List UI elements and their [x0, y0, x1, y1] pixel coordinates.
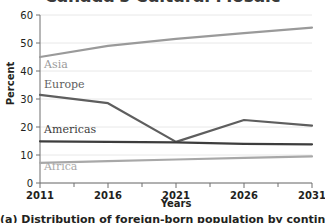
- y-tick-label: 40: [20, 66, 33, 77]
- x-tick-label: 2031: [298, 190, 325, 201]
- x-tick-label: 2011: [26, 190, 54, 201]
- y-tick-label: 0: [27, 178, 33, 189]
- series-label-asia: Asia: [43, 58, 68, 71]
- y-tick-label: 50: [20, 38, 33, 49]
- series-line-africa: [40, 156, 312, 162]
- y-axis-ticks: 0102030405060: [20, 10, 40, 189]
- x-axis-ticks: 20112016202120262031: [26, 183, 325, 201]
- x-tick-label: 2026: [230, 190, 258, 201]
- series-labels: AsiaEuropeAmericasAfrica: [43, 58, 96, 173]
- line-chart-plot: 0102030405060 20112016202120262031 AsiaE…: [0, 0, 325, 223]
- figure-caption: (a) Distribution of foreign-born populat…: [0, 213, 325, 223]
- series-line-asia: [40, 28, 312, 57]
- data-series: [40, 28, 312, 163]
- y-tick-label: 60: [20, 10, 33, 21]
- y-tick-label: 10: [20, 150, 33, 161]
- x-tick-label: 2021: [162, 190, 190, 201]
- series-line-americas: [40, 141, 312, 144]
- series-label-africa: Africa: [43, 160, 78, 173]
- chart-figure: Canada's Cultural Mosaic Percent Years 0…: [0, 0, 325, 223]
- x-tick-label: 2016: [94, 190, 122, 201]
- y-tick-label: 20: [20, 122, 33, 133]
- series-label-americas: Americas: [43, 123, 96, 136]
- series-label-europe: Europe: [44, 78, 85, 91]
- y-tick-label: 30: [20, 94, 33, 105]
